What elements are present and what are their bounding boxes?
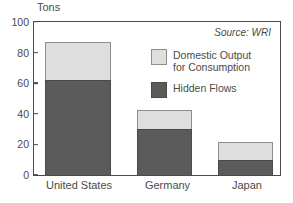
legend-label-domestic-output: Domestic Output for Consumption [173, 49, 251, 73]
y-tick-100: 100 [11, 17, 34, 28]
y-tick-40: 40 [17, 109, 34, 120]
plot-area: 100 80 60 40 20 0 Source: WRI Domestic O… [33, 21, 281, 176]
legend-item-hidden-flows: Hidden Flows [151, 82, 281, 98]
bar-segment-hidden-flows [137, 129, 192, 176]
y-axis-unit-label: Tons [37, 1, 60, 13]
chart-legend: Domestic Output for Consumption Hidden F… [151, 49, 281, 107]
x-label-japan: Japan [207, 179, 287, 191]
y-tick-60: 60 [17, 78, 34, 89]
y-tick-80: 80 [17, 47, 34, 58]
source-note: Source: WRI [214, 27, 271, 38]
legend-label-line1: Domestic Output [173, 50, 251, 62]
stacked-bar-chart: Tons 100 80 60 40 20 0 Source: WRI [0, 0, 293, 203]
bar-segment-domestic-output [45, 42, 111, 81]
bar-segment-hidden-flows [218, 160, 273, 176]
bar-japan [218, 142, 273, 175]
bar-segment-hidden-flows [45, 80, 111, 175]
bar-united-states [45, 42, 111, 175]
legend-swatch-light-gray-icon [151, 49, 167, 65]
x-label-germany: Germany [126, 179, 209, 191]
legend-item-domestic-output: Domestic Output for Consumption [151, 49, 281, 73]
y-tick-20: 20 [17, 139, 34, 150]
x-label-united-states: United States [33, 179, 125, 191]
bar-segment-domestic-output [137, 110, 192, 129]
legend-label-line1: Hidden Flows [173, 83, 237, 95]
bar-segment-domestic-output [218, 142, 273, 159]
legend-swatch-dark-gray-icon [151, 82, 167, 98]
legend-label-line2: for Consumption [173, 62, 251, 74]
bar-germany [137, 110, 192, 175]
legend-label-hidden-flows: Hidden Flows [173, 82, 237, 95]
